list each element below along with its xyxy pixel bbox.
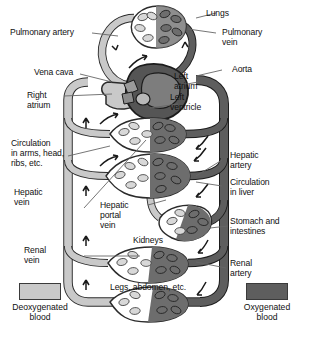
label-legs-abdomen: Legs, abdomen, etc. — [110, 282, 186, 292]
aorta-trunk — [196, 80, 224, 302]
lungs-organ — [131, 6, 186, 48]
label-right-atrium: Right atrium — [27, 90, 50, 110]
label-aorta: Aorta — [232, 64, 252, 74]
label-pulmonary-vein: Pulmonary vein — [222, 27, 262, 47]
label-kidneys: Kidneys — [133, 235, 163, 245]
label-circulation-arms: Circulation in arms, head, ribs, etc. — [11, 138, 64, 169]
label-hepatic-portal-vein: Hepatic portal vein — [100, 200, 128, 231]
label-vena-cava: Vena cava — [34, 67, 73, 77]
vena-cava-trunk — [68, 82, 88, 302]
label-hepatic-vein: Hepatic vein — [14, 187, 42, 207]
legend-swatch-oxygenated — [246, 283, 288, 300]
label-stomach-intestines: Stomach and intestines — [230, 216, 280, 236]
kidneys-organ — [108, 247, 188, 283]
lower-body-organ — [110, 287, 188, 322]
label-hepatic-artery: Hepatic artery — [230, 150, 258, 170]
label-pulmonary-artery: Pulmonary artery — [10, 27, 74, 37]
label-lungs: Lungs — [206, 8, 229, 18]
liver-organ — [106, 154, 190, 198]
legend-label-oxygenated: Oxygenated blood — [232, 302, 302, 323]
legend-swatch-deoxygenated — [19, 283, 61, 300]
circulation-diagram: Pulmonary artery Lungs Pulmonary vein Ve… — [0, 0, 309, 339]
label-renal-artery: Renal artery — [230, 258, 252, 278]
label-circulation-liver: Circulation in liver — [230, 177, 270, 197]
gut-organ — [159, 205, 211, 241]
legend-label-deoxygenated: Deoxygenated blood — [5, 302, 75, 323]
label-renal-vein: Renal vein — [24, 245, 46, 265]
label-left-atrium: Left atrium — [174, 71, 197, 91]
label-left-ventricle: Left ventricle — [170, 92, 201, 112]
upper-body-organ — [110, 118, 186, 152]
